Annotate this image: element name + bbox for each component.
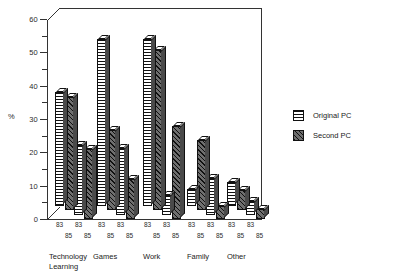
x-category-label: Games <box>93 252 117 262</box>
x-year-label-85: 85 <box>172 233 179 240</box>
bar <box>55 92 64 205</box>
bar-side-face <box>214 174 219 214</box>
legend: Original PC Second PC <box>293 108 351 148</box>
x-category-label: Family <box>187 252 209 262</box>
x-category-label: Technology <box>49 252 87 262</box>
legend-swatch-original-pc <box>293 110 304 121</box>
bar-side-face <box>105 35 110 205</box>
x-year-label-83: 83 <box>247 222 254 229</box>
bar-side-face <box>115 126 120 209</box>
y-tick-40 <box>40 86 47 87</box>
x-year-label-83: 83 <box>188 222 195 229</box>
bar-side-face <box>82 141 87 214</box>
x-year-label-83: 83 <box>144 222 151 229</box>
bar <box>187 189 196 206</box>
y-tick-label-0: 0 <box>34 216 38 224</box>
legend-label-second-pc: Second PC <box>313 131 351 140</box>
x-category-label: Other <box>227 252 246 262</box>
x-year-label-85: 85 <box>256 233 263 240</box>
y-tick-label-10: 10 <box>29 182 38 190</box>
bar <box>97 39 106 206</box>
x-year-label-85: 85 <box>153 233 160 240</box>
y-tick-50 <box>40 52 47 53</box>
bar-side-face <box>73 93 78 209</box>
x-year-label-83: 83 <box>75 222 82 229</box>
x-year-label-83: 83 <box>117 222 124 229</box>
bar <box>143 39 152 206</box>
x-category-group: Family <box>187 252 209 262</box>
x-category-label: Work <box>143 252 160 262</box>
x-category-label-line2: Learning <box>49 262 87 272</box>
x-year-label-85: 85 <box>197 233 204 240</box>
bar-side-face <box>63 88 68 204</box>
bar <box>256 209 265 219</box>
bar-side-face <box>92 145 97 218</box>
bar-side-face <box>134 175 139 218</box>
x-year-label-85: 85 <box>65 233 72 240</box>
y-tick-label-40: 40 <box>29 82 38 90</box>
x-year-label-83: 83 <box>56 222 63 229</box>
y-tick-label-50: 50 <box>29 49 38 57</box>
y-tick-0 <box>40 219 47 220</box>
legend-label-original-pc: Original PC <box>313 111 351 120</box>
y-axis-title: % <box>8 112 15 121</box>
x-category-group: Games <box>93 252 117 262</box>
legend-swatch-second-pc <box>293 130 304 141</box>
x-year-label-83: 83 <box>163 222 170 229</box>
y-tick-label-60: 60 <box>29 16 38 24</box>
y-tick-10 <box>40 186 47 187</box>
y-tick-label-30: 30 <box>29 116 38 124</box>
bars-layer <box>47 8 262 220</box>
x-year-label-85: 85 <box>107 233 114 240</box>
bar-side-face <box>205 136 210 209</box>
x-category-group: TechnologyLearning <box>49 252 87 272</box>
x-year-label-85: 85 <box>126 233 133 240</box>
bar-side-face <box>180 122 185 218</box>
x-year-label-85: 85 <box>84 233 91 240</box>
y-tick-30 <box>40 119 47 120</box>
y-tick-label-20: 20 <box>29 149 38 157</box>
bar-side-face <box>161 46 166 209</box>
legend-item-second-pc: Second PC <box>293 128 351 142</box>
y-tick-60 <box>40 19 47 20</box>
x-category-group: Work <box>143 252 160 262</box>
x-year-label-85: 85 <box>216 233 223 240</box>
x-year-label-83: 83 <box>228 222 235 229</box>
x-year-label-83: 83 <box>207 222 214 229</box>
x-year-label-85: 85 <box>237 233 244 240</box>
x-axis-labels: 83838585TechnologyLearning83838585Games8… <box>47 222 277 278</box>
legend-item-original-pc: Original PC <box>293 108 351 122</box>
x-year-label-83: 83 <box>98 222 105 229</box>
bar-side-face <box>124 144 129 214</box>
y-tick-20 <box>40 152 47 153</box>
x-category-group: Other <box>227 252 246 262</box>
bar-chart: % 0102030405060 83838585TechnologyLearni… <box>0 0 395 278</box>
bar-side-face <box>151 35 156 205</box>
